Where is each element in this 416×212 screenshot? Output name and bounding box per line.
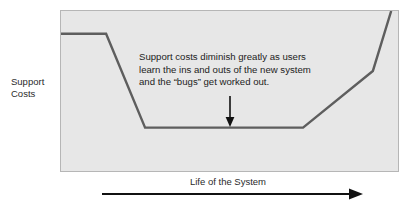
support-costs-diagram: Support Costs Support costs diminish gre… xyxy=(0,0,416,212)
arrow-right-icon xyxy=(100,186,365,202)
y-axis-label: Support Costs xyxy=(11,76,59,99)
plot-area: Support costs diminish greatly as users … xyxy=(60,10,399,172)
arrow-down-icon xyxy=(223,96,237,128)
support-cost-curve xyxy=(61,11,399,172)
annotation-text: Support costs diminish greatly as users … xyxy=(139,51,359,89)
